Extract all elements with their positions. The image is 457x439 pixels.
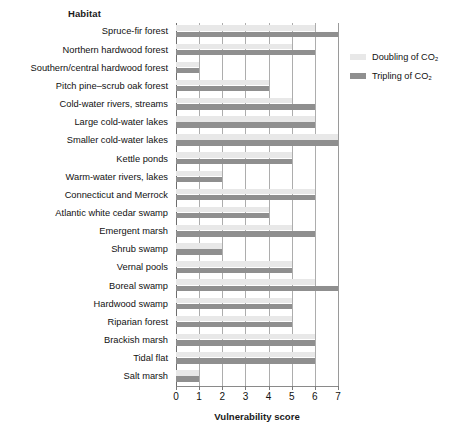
bar-doubling bbox=[176, 171, 222, 176]
bar-row bbox=[176, 332, 338, 350]
x-tick bbox=[245, 386, 246, 390]
bar-row bbox=[176, 132, 338, 150]
bar-doubling bbox=[176, 44, 292, 49]
bar-tripling bbox=[176, 376, 199, 381]
category-label: Large cold-water lakes bbox=[0, 117, 168, 127]
category-label-column: Spruce-fir forestNorthern hardwood fores… bbox=[0, 23, 172, 386]
bar-tripling bbox=[176, 268, 292, 273]
category-label: Southern/central hardwood forest bbox=[0, 63, 168, 73]
bar-tripling bbox=[176, 104, 315, 109]
bar-row bbox=[176, 205, 338, 223]
bar-row bbox=[176, 277, 338, 295]
bar-doubling bbox=[176, 98, 292, 103]
category-label: Hardwood swamp bbox=[0, 299, 168, 309]
bar-doubling bbox=[176, 225, 292, 230]
gridline-7 bbox=[338, 23, 339, 386]
bar-doubling bbox=[176, 134, 338, 139]
bar-tripling bbox=[176, 86, 269, 91]
habitat-column-header: Habitat bbox=[68, 8, 101, 19]
category-label: Tidal flat bbox=[0, 353, 168, 363]
legend: Doubling of CO₂ Tripling of CO₂ bbox=[350, 52, 438, 90]
category-label: Spruce-fir forest bbox=[0, 26, 168, 36]
x-tick-label: 7 bbox=[326, 391, 350, 402]
bar-doubling bbox=[176, 25, 315, 30]
bar-tripling bbox=[176, 322, 292, 327]
category-label: Boreal swamp bbox=[0, 281, 168, 291]
vulnerability-score-bar-chart: Habitat Spruce-fir forestNorthern hardwo… bbox=[0, 0, 457, 439]
bar-row bbox=[176, 114, 338, 132]
x-tick bbox=[338, 386, 339, 390]
category-label: Kettle ponds bbox=[0, 154, 168, 164]
legend-label-tripling: Tripling of CO₂ bbox=[372, 71, 432, 81]
legend-item-tripling: Tripling of CO₂ bbox=[350, 71, 438, 81]
bar-row bbox=[176, 368, 338, 386]
bar-doubling bbox=[176, 116, 315, 121]
x-tick-label: 3 bbox=[233, 391, 257, 402]
bar-doubling bbox=[176, 261, 292, 266]
x-axis-title: Vulnerability score bbox=[176, 411, 338, 422]
bar-doubling bbox=[176, 80, 269, 85]
category-label: Shrub swamp bbox=[0, 244, 168, 254]
legend-swatch-tripling-icon bbox=[350, 73, 366, 79]
bar-tripling bbox=[176, 340, 315, 345]
bar-row bbox=[176, 59, 338, 77]
bar-tripling bbox=[176, 213, 269, 218]
bar-doubling bbox=[176, 370, 199, 375]
bar-doubling bbox=[176, 152, 292, 157]
x-tick bbox=[269, 386, 270, 390]
legend-label-doubling: Doubling of CO₂ bbox=[372, 52, 438, 62]
plot-area bbox=[176, 23, 338, 386]
bar-doubling bbox=[176, 316, 292, 321]
category-label: Atlantic white cedar swamp bbox=[0, 208, 168, 218]
bar-tripling bbox=[176, 159, 292, 164]
legend-swatch-doubling-icon bbox=[350, 54, 366, 60]
bar-tripling bbox=[176, 177, 222, 182]
category-label: Pitch pine–scrub oak forest bbox=[0, 81, 168, 91]
bar-row bbox=[176, 313, 338, 331]
bar-doubling bbox=[176, 334, 315, 339]
x-tick-label: 2 bbox=[210, 391, 234, 402]
category-label: Warm-water rivers, lakes bbox=[0, 172, 168, 182]
bar-row bbox=[176, 168, 338, 186]
bar-row bbox=[176, 96, 338, 114]
bar-row bbox=[176, 223, 338, 241]
bar-row bbox=[176, 150, 338, 168]
bar-doubling bbox=[176, 189, 315, 194]
bar-row bbox=[176, 241, 338, 259]
bar-row bbox=[176, 77, 338, 95]
bar-tripling bbox=[176, 140, 338, 145]
bar-row bbox=[176, 186, 338, 204]
legend-item-doubling: Doubling of CO₂ bbox=[350, 52, 438, 62]
bar-doubling bbox=[176, 352, 315, 357]
x-tick-label: 6 bbox=[303, 391, 327, 402]
bar-tripling bbox=[176, 122, 315, 127]
bar-tripling bbox=[176, 304, 292, 309]
bar-tripling bbox=[176, 195, 315, 200]
bar-tripling bbox=[176, 231, 315, 236]
x-tick bbox=[292, 386, 293, 390]
bar-rows bbox=[176, 23, 338, 386]
category-label: Smaller cold-water lakes bbox=[0, 135, 168, 145]
bar-tripling bbox=[176, 286, 338, 291]
bar-doubling bbox=[176, 279, 315, 284]
bar-tripling bbox=[176, 50, 315, 55]
x-tick bbox=[176, 386, 177, 390]
category-label: Cold-water rivers, streams bbox=[0, 99, 168, 109]
category-label: Emergent marsh bbox=[0, 226, 168, 236]
bar-doubling bbox=[176, 62, 199, 67]
bar-tripling bbox=[176, 68, 199, 73]
bar-row bbox=[176, 259, 338, 277]
bar-tripling bbox=[176, 358, 315, 363]
x-tick bbox=[315, 386, 316, 390]
bar-doubling bbox=[176, 207, 269, 212]
category-label: Riparian forest bbox=[0, 317, 168, 327]
bar-doubling bbox=[176, 298, 292, 303]
category-label: Northern hardwood forest bbox=[0, 45, 168, 55]
x-axis-line bbox=[176, 386, 338, 387]
bar-tripling bbox=[176, 32, 338, 37]
category-label: Vernal pools bbox=[0, 262, 168, 272]
category-label: Salt marsh bbox=[0, 371, 168, 381]
x-tick bbox=[199, 386, 200, 390]
x-tick-label: 4 bbox=[257, 391, 281, 402]
bar-doubling bbox=[176, 243, 222, 248]
